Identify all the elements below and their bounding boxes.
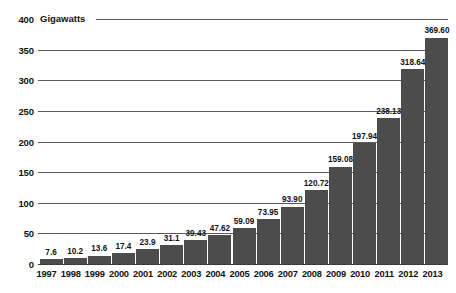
bar-value-label: 197.94 bbox=[352, 133, 377, 141]
y-tick-label: 400 bbox=[4, 15, 34, 25]
y-tick-label: 300 bbox=[4, 76, 34, 86]
bar[interactable] bbox=[353, 143, 376, 264]
plot-area: 7.610.213.617.423.931.139.4347.6259.0973… bbox=[38, 19, 448, 264]
bar-value-label: 47.62 bbox=[210, 225, 231, 233]
y-tick-label: 150 bbox=[4, 168, 34, 178]
bar-value-label: 318.64 bbox=[400, 59, 425, 67]
gridline-0 bbox=[38, 264, 448, 265]
y-tick-label: 250 bbox=[4, 107, 34, 117]
bar[interactable] bbox=[377, 118, 400, 264]
y-tick-label: 350 bbox=[4, 46, 34, 56]
y-tick-label: 50 bbox=[4, 229, 34, 239]
bar[interactable] bbox=[401, 69, 424, 264]
bar[interactable] bbox=[112, 253, 135, 264]
bar[interactable] bbox=[160, 245, 183, 264]
bar-value-label: 39.43 bbox=[186, 230, 207, 238]
bar[interactable] bbox=[329, 167, 352, 264]
y-tick-label: 0 bbox=[4, 260, 34, 270]
bar-value-label: 159.08 bbox=[328, 156, 353, 164]
x-axis-label: 2013 bbox=[416, 270, 448, 279]
bar-value-label: 23.9 bbox=[140, 239, 156, 247]
bar-value-label: 369.60 bbox=[424, 27, 449, 35]
bar-value-label: 7.6 bbox=[45, 249, 56, 257]
bar-value-label: 31.1 bbox=[164, 235, 180, 243]
bars-group: 7.610.213.617.423.931.139.4347.6259.0973… bbox=[38, 19, 448, 264]
bar-value-label: 10.2 bbox=[67, 248, 83, 256]
bar-value-label: 59.09 bbox=[234, 218, 255, 226]
bar[interactable] bbox=[136, 249, 159, 264]
x-axis-labels: 1997199819992000200120022003200420052006… bbox=[38, 270, 448, 286]
y-tick-label: 200 bbox=[4, 138, 34, 148]
bar-chart: Gigawatts 7.610.213.617.423.931.139.4347… bbox=[0, 0, 456, 293]
bar-value-label: 120.72 bbox=[304, 180, 329, 188]
bar[interactable] bbox=[281, 207, 304, 265]
bar-value-label: 13.6 bbox=[91, 245, 107, 253]
bar[interactable] bbox=[208, 235, 231, 264]
bar-value-label: 17.4 bbox=[115, 243, 131, 251]
bar[interactable] bbox=[305, 190, 328, 264]
bar[interactable] bbox=[40, 259, 63, 264]
bar[interactable] bbox=[64, 258, 87, 264]
bar-value-label: 73.95 bbox=[258, 209, 279, 217]
bar[interactable] bbox=[184, 240, 207, 264]
bar[interactable] bbox=[233, 228, 256, 264]
bar[interactable] bbox=[88, 256, 111, 264]
bar-value-label: 93.90 bbox=[282, 196, 303, 204]
bar[interactable] bbox=[425, 38, 448, 264]
bar-value-label: 238.13 bbox=[376, 108, 401, 116]
y-tick-label: 100 bbox=[4, 199, 34, 209]
bar[interactable] bbox=[257, 219, 280, 264]
